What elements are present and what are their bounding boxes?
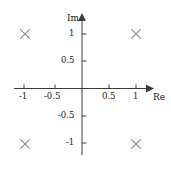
y-tick-label: 0.5	[61, 56, 75, 65]
y-tick-label: 1	[69, 29, 74, 38]
x-tick-label: 1	[133, 92, 138, 101]
pole-marker-x-icon	[132, 30, 141, 39]
pole-marker-x-icon	[132, 140, 141, 149]
x-tick-marks	[24, 85, 136, 89]
imaginary-axis-label: Im	[67, 14, 79, 23]
plot-canvas	[0, 0, 171, 169]
pole-marker-x-icon	[21, 140, 30, 149]
complex-plane-plot: Im Re -1 -0.5 0.5 1 1 0.5 -0.5 -1	[0, 0, 171, 169]
pole-marker-x-icon	[21, 30, 30, 39]
x-tick-label: 0.5	[102, 92, 116, 101]
imaginary-axis-arrow-icon	[78, 13, 86, 21]
real-axis-label: Re	[153, 93, 165, 102]
x-tick-label: -1	[19, 92, 27, 101]
y-tick-label: -0.5	[58, 111, 74, 120]
y-tick-label: -1	[66, 138, 74, 147]
x-tick-label: -0.5	[44, 92, 60, 101]
